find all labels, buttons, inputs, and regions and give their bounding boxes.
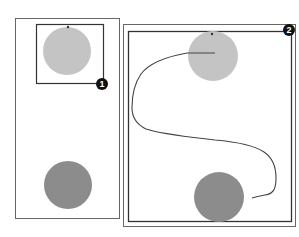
badge-2-label: 2 bbox=[286, 25, 291, 35]
light-circle bbox=[43, 27, 91, 75]
anchor-dot bbox=[211, 33, 213, 35]
light-circle bbox=[188, 31, 238, 81]
badge-1-label: 1 bbox=[99, 79, 104, 89]
panel-1: 1 bbox=[16, 19, 120, 219]
diagram-canvas: 1 2 bbox=[0, 0, 299, 237]
dark-circle bbox=[44, 161, 92, 209]
dark-circle bbox=[194, 172, 244, 222]
badge-1: 1 bbox=[96, 78, 108, 90]
anchor-dot bbox=[67, 26, 69, 28]
panel-2: 2 bbox=[124, 24, 296, 227]
badge-2: 2 bbox=[283, 24, 295, 36]
